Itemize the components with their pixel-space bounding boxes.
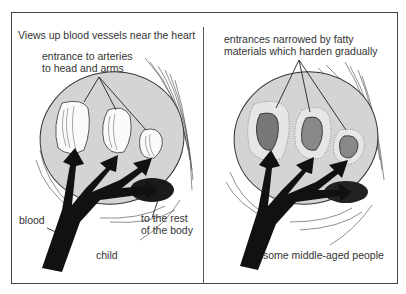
label-narrowed-line2: materials which harden gradually — [224, 45, 378, 57]
figure-title: Views up blood vessels near the heart — [18, 29, 195, 41]
caption-middle-aged: some middle-aged people — [263, 249, 384, 261]
label-rest-line2: of the body — [141, 224, 193, 236]
label-arteries-line2: to head and arms — [42, 62, 124, 74]
child-vessel-diagram — [30, 58, 195, 272]
label-rest-line1: to the rest — [141, 212, 188, 224]
label-narrowed-line1: entrances narrowed by fatty — [224, 33, 354, 45]
label-blood: blood — [19, 214, 45, 226]
middle-aged-vessel-diagram — [224, 60, 389, 270]
label-arteries-line1: entrance to arteries — [42, 50, 132, 62]
caption-child: child — [96, 249, 118, 261]
